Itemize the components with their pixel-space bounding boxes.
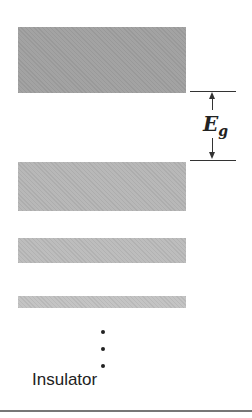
- valence-band-2: [18, 238, 186, 263]
- band-gap-label: Eg: [203, 112, 228, 139]
- arrow-down-icon: [209, 152, 215, 159]
- continuation-dot: [101, 364, 105, 368]
- conduction-band: [18, 27, 186, 93]
- gap-lower-level-line: [190, 160, 236, 161]
- bottom-divider: [0, 410, 252, 412]
- arrow-shaft-lower: [212, 138, 213, 153]
- caption: Insulator: [32, 370, 97, 390]
- continuation-dot: [101, 347, 105, 351]
- continuation-dot: [101, 330, 105, 334]
- valence-band-3: [18, 296, 186, 308]
- valence-band-1: [18, 162, 186, 211]
- arrow-shaft-upper: [212, 98, 213, 110]
